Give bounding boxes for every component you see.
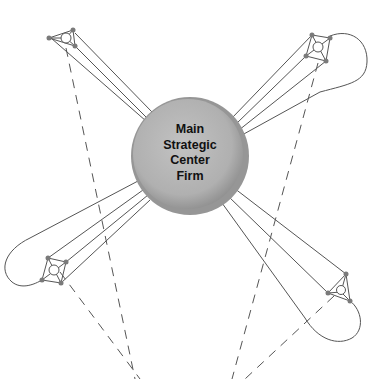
links-bottom-left [5, 181, 150, 286]
links-bottom-right [222, 188, 360, 341]
hub-label-line-4: Firm [150, 169, 230, 185]
hub-label: Main Strategic Center Firm [150, 122, 230, 184]
links-top-right [232, 34, 367, 135]
strategic-network-diagram [0, 0, 369, 379]
partner-node-top-right [304, 33, 333, 64]
hub-label-line-1: Main [150, 122, 230, 138]
hub-label-line-3: Center [150, 153, 230, 169]
hub-label-line-2: Strategic [150, 138, 230, 154]
partner-node-bottom-left [40, 256, 69, 286]
partner-node-top-left [47, 28, 78, 49]
links-top-left [51, 33, 152, 121]
partner-node-bottom-right [326, 272, 353, 304]
